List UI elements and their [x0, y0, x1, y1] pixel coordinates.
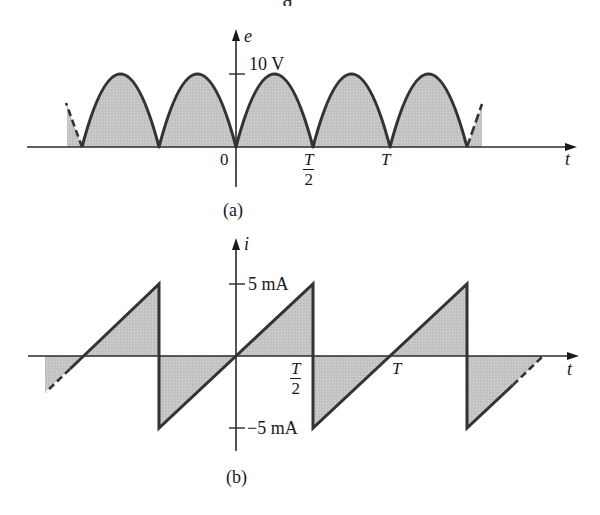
chart-a-x-tick-half-period: T 2 [303, 151, 314, 188]
waveform-plots [0, 0, 600, 515]
chart-b-y-tick-pos-label: 5 mA [248, 275, 289, 293]
chart-a-x-tick-period: T [381, 151, 390, 168]
chart-b-caption: (b) [226, 468, 247, 486]
figure-canvas: g [0, 0, 600, 515]
chart-a-y-axis-label: e [244, 27, 252, 45]
chart-a-caption: (a) [223, 201, 243, 219]
chart-b-x-tick-half-period: T 2 [290, 360, 301, 397]
chart-a-x-axis-label: t [565, 150, 570, 168]
chart-b-x-tick-period: T [392, 360, 401, 377]
chart-a-y-tick-label: 10 V [249, 55, 284, 73]
chart-a-y-axis-arrowhead [232, 29, 240, 41]
chart-a-shaded-area [67, 74, 482, 147]
chart-a [27, 29, 577, 187]
fraction-numerator: T [290, 360, 301, 379]
fraction-numerator: T [303, 151, 314, 170]
chart-b-x-axis-label: t [567, 360, 572, 378]
fraction-denominator: 2 [304, 170, 313, 188]
chart-b-y-axis-arrowhead [232, 238, 240, 250]
chart-b-y-axis-label: i [244, 235, 249, 253]
chart-b-y-tick-neg-label: −5 mA [247, 419, 298, 437]
fraction-denominator: 2 [291, 379, 300, 397]
chart-a-x-tick-origin: 0 [220, 151, 229, 168]
chart-b [28, 238, 579, 451]
